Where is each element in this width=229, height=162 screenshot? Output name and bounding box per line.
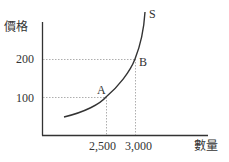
y-axis-label: 價格	[4, 19, 28, 34]
point-label-a: A	[97, 83, 106, 97]
supply-curve	[64, 12, 145, 117]
x-tick-3000: 3,000	[125, 139, 152, 153]
curve-label-s: S	[149, 7, 156, 21]
point-label-b: B	[139, 55, 147, 69]
supply-curve-chart: 價格 200 100 2,500 3,000 數量 S A B	[0, 0, 229, 162]
y-tick-200: 200	[16, 52, 34, 66]
x-axis-label: 數量	[194, 139, 218, 153]
y-tick-100: 100	[16, 91, 34, 105]
x-tick-2500: 2,500	[89, 139, 116, 153]
